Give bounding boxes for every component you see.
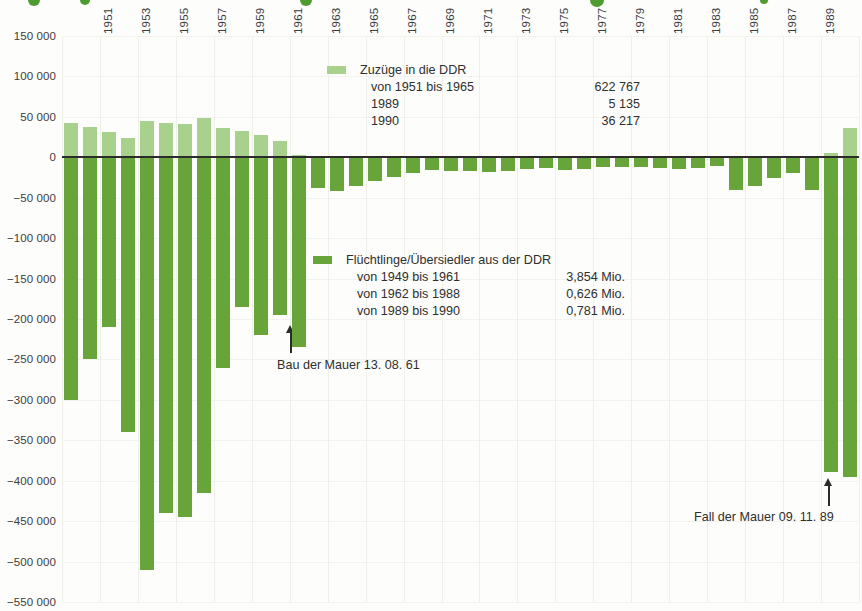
y-axis-tick-label: −500 000 [7,556,56,568]
gridline-horizontal [62,602,859,603]
bar-negative [691,157,705,168]
bar-negative [387,157,401,176]
x-axis-tick-label: 1959 [254,8,266,34]
x-axis-tick-label: 1963 [330,8,342,34]
bar-negative [425,157,439,170]
bar-group [235,36,249,602]
bar-negative [197,157,211,493]
y-axis-tick-label: 50 000 [20,111,56,123]
bar-group [729,36,743,602]
bar-positive [254,135,268,158]
gridline-vertical [252,36,253,602]
bar-negative [615,157,629,167]
gridline-vertical [176,36,177,602]
x-axis: 1951195319551957195919611963196519671969… [62,0,859,36]
x-axis-tick-label: 1979 [634,8,646,34]
bar-group [140,36,154,602]
y-axis-tick-label: −150 000 [7,273,56,285]
bar-group [64,36,78,602]
bar-group [425,36,439,602]
bar-group [843,36,857,602]
bar-negative [444,157,458,171]
bar-positive [273,141,287,157]
bar-positive [140,121,154,157]
bar-group [102,36,116,602]
bar-group [330,36,344,602]
x-axis-tick-label: 1983 [710,8,722,34]
bar-group [615,36,629,602]
bar-negative [539,157,553,168]
bar-negative [729,157,743,190]
y-axis-tick-label: −100 000 [7,232,56,244]
gridline-vertical [290,36,291,602]
x-axis-tick-label: 1981 [672,8,684,34]
gridline-vertical [100,36,101,602]
bar-group [634,36,648,602]
bar-negative [501,157,515,171]
bar-negative [159,157,173,513]
bar-positive [235,131,249,158]
y-axis-tick-label: −50 000 [13,192,56,204]
y-axis-tick-label: −350 000 [7,434,56,446]
bar-group [672,36,686,602]
gridline-vertical [859,36,860,602]
bar-negative [83,157,97,359]
bar-group [463,36,477,602]
bar-group [710,36,724,602]
bar-group [197,36,211,602]
bar-group [558,36,572,602]
bar-negative [349,157,363,185]
bar-group [444,36,458,602]
x-axis-tick-label: 1961 [292,8,304,34]
y-axis-tick-label: −200 000 [7,313,56,325]
bar-group [596,36,610,602]
bar-negative [64,157,78,400]
bar-group [121,36,135,602]
x-axis-tick-label: 1955 [178,8,190,34]
bar-negative [216,157,230,367]
x-axis-tick-label: 1953 [140,8,152,34]
bar-negative [273,157,287,315]
bar-negative [520,157,534,169]
bar-positive [843,128,857,157]
bar-positive [64,123,78,157]
gridline-vertical [138,36,139,602]
bar-positive [197,118,211,157]
bar-positive [102,132,116,157]
bar-group [653,36,667,602]
bar-group [824,36,838,602]
bar-group [482,36,496,602]
x-axis-tick-label: 1975 [558,8,570,34]
bar-negative [235,157,249,307]
x-axis-tick-label: 1967 [406,8,418,34]
y-axis-tick-label: −450 000 [7,515,56,527]
bar-negative [634,157,648,167]
x-axis-tick-label: 1985 [748,8,760,34]
bar-group [748,36,762,602]
zero-line [62,156,859,158]
bar-negative [482,157,496,172]
x-axis-tick-label: 1989 [824,8,836,34]
bar-negative [558,157,572,170]
bar-group [368,36,382,602]
bar-negative [102,157,116,327]
bar-negative [121,157,135,432]
y-axis-tick-label: −400 000 [7,475,56,487]
bar-negative [596,157,610,167]
x-axis-tick-label: 1957 [216,8,228,34]
y-axis-tick-label: 0 [50,151,57,163]
x-axis-tick-label: 1965 [368,8,380,34]
bar-group [520,36,534,602]
bar-positive [216,128,230,157]
bar-negative [748,157,762,185]
y-axis-tick-label: −250 000 [7,353,56,365]
bar-negative [178,157,192,517]
x-axis-tick-label: 1973 [520,8,532,34]
bar-group [216,36,230,602]
gridline-vertical [62,36,63,602]
x-axis-tick-label: 1969 [444,8,456,34]
x-axis-tick-label: 1951 [102,8,114,34]
bar-negative [577,157,591,169]
bar-negative [330,157,344,191]
bar-group [273,36,287,602]
